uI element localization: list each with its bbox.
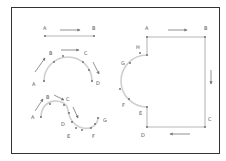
label-b: B (46, 94, 50, 100)
label-g: G (121, 60, 125, 66)
point-a (146, 36, 148, 38)
point-b (93, 35, 95, 37)
point-c (204, 126, 206, 128)
label-e: E (139, 110, 142, 116)
label-e: E (67, 133, 70, 139)
label-a: A (145, 25, 149, 31)
label-b: B (92, 25, 96, 31)
point-h (139, 52, 141, 54)
label-f: F (122, 102, 125, 108)
path-diagram: A B A B C D A B C D E F (0, 0, 226, 161)
label-d: D (141, 132, 145, 138)
label-c: C (208, 116, 212, 122)
point-a (40, 116, 42, 118)
point-c (63, 104, 65, 106)
label-b: B (49, 50, 53, 56)
point-h2 (146, 54, 148, 56)
point-a (43, 80, 45, 82)
label-b: B (204, 25, 208, 31)
point-d (91, 80, 93, 82)
point-c (82, 61, 84, 63)
point-f (128, 98, 130, 100)
label-a: A (43, 25, 47, 31)
point-b (49, 103, 51, 105)
point-d (71, 121, 73, 123)
point-b (53, 61, 55, 63)
point-e (146, 106, 148, 108)
label-f: F (92, 133, 95, 139)
point-f2 (94, 123, 96, 125)
point-d (146, 126, 148, 128)
point-g (129, 62, 131, 64)
point-a (44, 35, 46, 37)
point-f (90, 127, 92, 129)
point-e (81, 129, 83, 131)
point-mid (62, 55, 64, 57)
label-c: C (66, 96, 70, 102)
label-d: D (96, 80, 100, 86)
point-g (97, 117, 99, 119)
point-b (204, 36, 206, 38)
label-h: H (136, 44, 140, 50)
point-c2 (68, 112, 70, 114)
label-a: A (31, 114, 35, 120)
label-d: D (61, 121, 65, 127)
point-mid (119, 88, 121, 90)
label-g: G (103, 117, 107, 123)
point-d2 (75, 127, 77, 129)
point-c2 (88, 69, 90, 71)
label-c: C (84, 50, 88, 56)
label-a: A (32, 81, 36, 87)
